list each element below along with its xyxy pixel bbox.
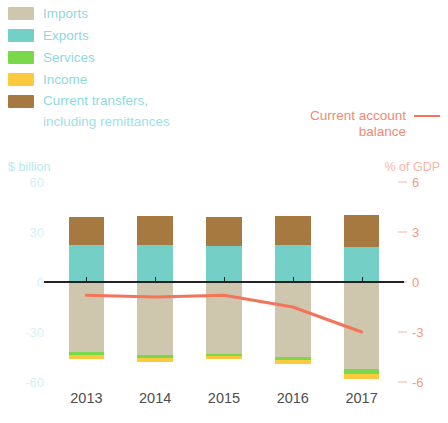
legend-label-exports: Exports xyxy=(43,28,89,43)
right-axis-unit-label: % of GDP xyxy=(384,160,440,174)
legend-item-exports: Exports xyxy=(8,28,258,45)
y-axis-right-tick: 3 xyxy=(412,225,419,240)
legend-label-current-transfers: Current transfers, xyxy=(43,94,148,108)
y-axis-right-tick: -6 xyxy=(412,375,424,390)
legend-swatch-imports xyxy=(8,7,34,20)
legend-swatch-services xyxy=(8,51,34,64)
x-axis-label-2016: 2016 xyxy=(277,390,309,406)
y-axis-right-tick: -3 xyxy=(412,325,424,340)
legend-current-account-balance: Current account balance xyxy=(240,108,440,140)
legend-swatch-income xyxy=(8,73,34,86)
legend-label-balance: balance xyxy=(240,124,406,140)
x-axis-label-2014: 2014 xyxy=(139,390,171,406)
current-account-balance-line xyxy=(52,182,396,382)
y-axis-right-tick-mark xyxy=(398,182,407,183)
y-axis-left-tick: -30 xyxy=(25,325,44,340)
x-axis-label-2015: 2015 xyxy=(208,390,240,406)
legend-item-current-transfers: Current transfers, xyxy=(8,94,258,111)
y-axis-right-tick-mark xyxy=(398,232,407,233)
legend-item-income: Income xyxy=(8,72,258,89)
x-axis-label-2017: 2017 xyxy=(345,390,377,406)
y-axis-right-tick-mark xyxy=(398,382,407,383)
legend-sublabel-current-transfers: including remittances xyxy=(43,114,258,129)
legend-item-imports: Imports xyxy=(8,6,258,23)
x-axis-label-2013: 2013 xyxy=(70,390,102,406)
y-axis-right-tick: 0 xyxy=(412,275,419,290)
left-axis-unit-label: $ billion xyxy=(8,160,50,174)
legend-label-income: Income xyxy=(43,72,87,87)
y-axis-right-tick-mark xyxy=(398,332,407,333)
legend-swatch-current-transfers xyxy=(8,95,34,108)
y-axis-left-tick: 60 xyxy=(30,175,44,190)
legend-label-imports: Imports xyxy=(43,6,88,21)
legend-swatch-exports xyxy=(8,29,34,42)
x-axis-labels: 20132014201520162017 xyxy=(52,390,396,414)
y-axis-left-tick: 30 xyxy=(30,225,44,240)
legend-categories: Imports Exports Services Income Current … xyxy=(8,6,258,129)
legend-item-services: Services xyxy=(8,50,258,67)
y-axis-left-tick: -60 xyxy=(25,375,44,390)
y-axis-left-tick: 0 xyxy=(37,275,44,290)
legend-label-current-account: Current account xyxy=(310,108,406,124)
legend-line-swatch-current-account-balance xyxy=(414,115,440,118)
chart-plot-area: 60300-30-60630-3-6 xyxy=(52,182,396,382)
y-axis-right-tick: 6 xyxy=(412,175,419,190)
legend-label-services: Services xyxy=(43,50,95,65)
